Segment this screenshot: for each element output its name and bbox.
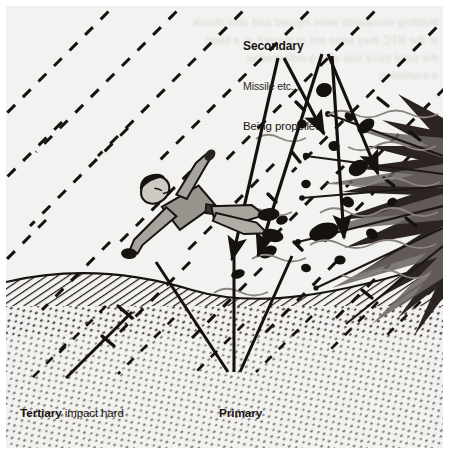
secondary-heading: Secondary (243, 39, 321, 53)
tertiary-heading: Tertiary (20, 406, 62, 420)
primary-heading: Primary (219, 407, 322, 421)
annotation-secondary: Secondary Missile etc... Being propelled (243, 12, 321, 161)
tertiary-line-1: impact hard (62, 407, 124, 419)
blast-injury-figure: building occupants were injured and also… (0, 0, 449, 458)
secondary-line-1: Missile etc... (243, 80, 321, 92)
secondary-line-2: Being propelled (243, 120, 321, 134)
annotation-primary: Primary blast force injuries: 1. Ears 2.… (219, 380, 322, 448)
scanned-page: building occupants were injured and also… (6, 6, 443, 448)
annotation-tertiary: Tertiary impact hard surface multiple in… (20, 380, 124, 448)
